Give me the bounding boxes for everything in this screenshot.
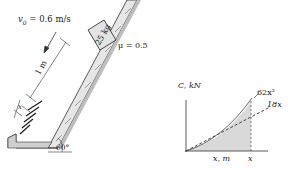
spring xyxy=(20,101,42,134)
dimension-lines xyxy=(14,38,70,118)
velocity-arrow xyxy=(44,32,56,53)
curve-label: 62x² xyxy=(257,89,275,97)
y-axis-label: C, kN xyxy=(178,82,201,90)
compression-label: x xyxy=(18,104,22,111)
graph xyxy=(185,94,270,152)
velocity-value: = 0.6 m/s xyxy=(27,14,71,24)
y-axis-text: C, kN xyxy=(178,81,201,90)
angle-label: 60° xyxy=(56,144,69,152)
figure xyxy=(0,0,288,176)
friction-label: μ = 0.5 xyxy=(118,42,148,50)
x-tick-label: x xyxy=(248,155,253,163)
line-label: 18x xyxy=(267,101,282,109)
x-axis-label: x, m xyxy=(213,155,230,163)
velocity-label: v0 = 0.6 m/s xyxy=(18,15,71,26)
